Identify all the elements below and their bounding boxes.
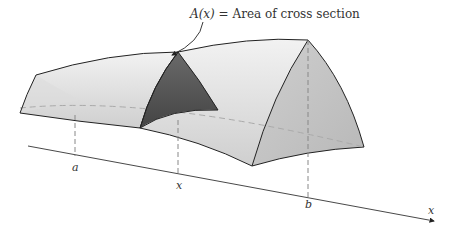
cross-section-caption: A(x) = Area of cross section: [190, 7, 360, 21]
diagram-graphic: [0, 0, 456, 229]
axis-label-x: x: [428, 204, 434, 217]
tick-label-x: x: [176, 179, 182, 192]
caption-function: A(x): [190, 7, 215, 21]
tick-label-b: b: [305, 198, 312, 211]
tick-label-a: a: [72, 161, 79, 174]
volume-by-cross-section-diagram: A(x) = Area of cross section a x b x: [0, 0, 456, 229]
x-axis: [28, 146, 434, 221]
caption-text: = Area of cross section: [215, 7, 360, 21]
